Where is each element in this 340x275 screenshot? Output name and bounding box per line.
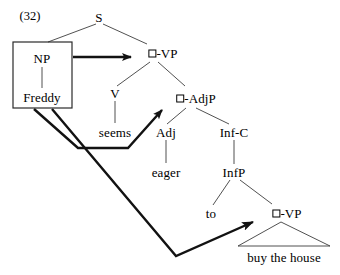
branch-infp-to-vp [240,180,272,204]
branch-adjp-to-adj [167,108,186,124]
trace-box-icon-vp-bottom [272,209,280,217]
node-np: NP [34,52,51,65]
trace-box-icon-vp-top [148,49,156,57]
node-inf-c: Inf-C [220,126,249,139]
node-adjp: -AdjP [176,92,216,105]
branch-infp-to-to [213,180,230,205]
node-v: V [110,87,120,100]
node-s: S [95,11,102,24]
node-adj: Adj [156,126,176,139]
branch-vp-to-v [117,62,150,86]
node-vp-top-label: -VP [156,46,177,61]
trace-box-icon-adjp [176,94,184,102]
node-seems: seems [99,126,131,139]
example-number: (32) [20,10,41,23]
node-buy-the-house: buy the house [247,251,321,264]
node-adjp-label: -AdjP [184,91,216,106]
node-infp: InfP [223,166,246,179]
node-vp-bottom-label: -VP [280,206,301,221]
syntax-tree-figure: (32) S NP Freddy -VP V seems -AdjP Adj e… [0,0,340,275]
branch-adjp-to-infc [196,108,229,124]
node-freddy: Freddy [23,91,60,104]
movement-arrows [34,57,253,256]
node-to: to [206,207,216,220]
branch-vp-to-adjp [158,62,185,86]
branch-s-to-np [48,24,96,42]
node-vp-top: -VP [148,47,177,60]
triangle-buy-the-house [238,222,330,246]
branch-s-to-vp [103,24,147,44]
node-eager: eager [152,166,181,179]
node-vp-bottom: -VP [272,207,301,220]
